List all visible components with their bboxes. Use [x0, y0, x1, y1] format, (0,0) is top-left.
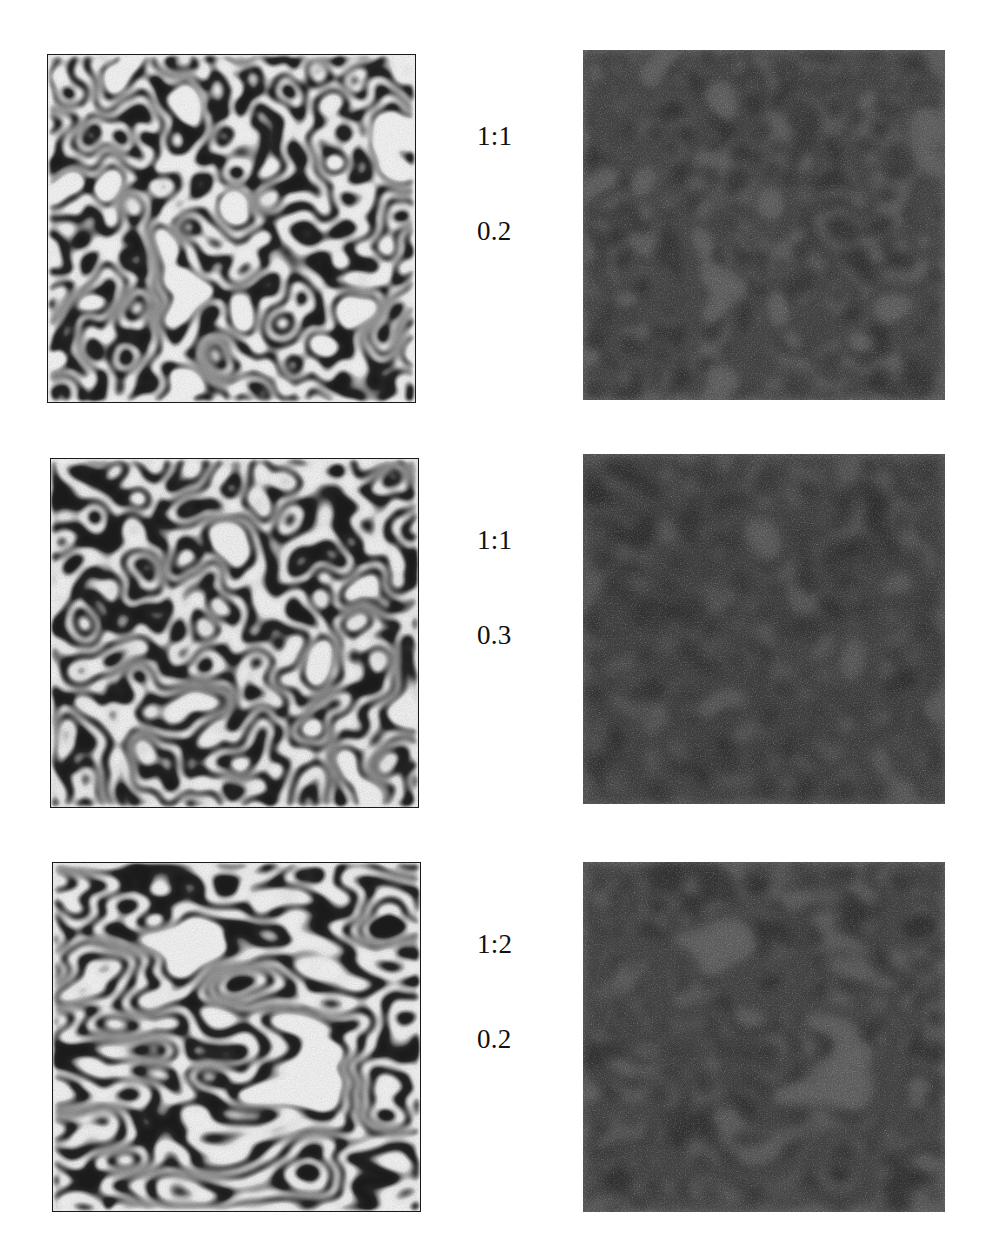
param-label-row3-ratio: 1:2: [477, 929, 512, 961]
param-label-row3: 1:2 0.2: [477, 866, 512, 1119]
param-label-row1-value: 0.2: [477, 216, 512, 248]
param-label-row1-ratio: 1:1: [477, 121, 512, 153]
turing-pattern-row1-left: [47, 54, 416, 403]
param-label-row2-value: 0.3: [477, 620, 512, 652]
turing-pattern-row1-right: [583, 50, 945, 400]
turing-pattern-row3-left: [52, 862, 421, 1212]
param-label-row3-value: 0.2: [477, 1024, 512, 1056]
turing-pattern-row2-left: [50, 458, 419, 808]
turing-pattern-row2-right: [583, 454, 945, 804]
turing-pattern-row3-right: [583, 862, 945, 1212]
figure-root: 1:1 0.2: [0, 0, 995, 1255]
param-label-row2: 1:1 0.3: [477, 462, 512, 715]
param-label-row1: 1:1 0.2: [477, 58, 512, 311]
param-label-row2-ratio: 1:1: [477, 525, 512, 557]
